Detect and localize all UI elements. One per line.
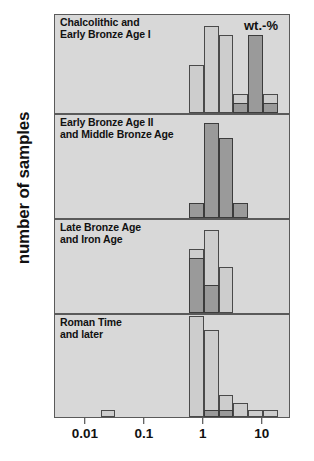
bar-light <box>204 330 219 417</box>
panel-title: Roman Time and later <box>60 317 122 340</box>
y-tick-label: 12 <box>54 126 55 140</box>
x-tick-mark <box>84 418 86 424</box>
y-tick-label: 8 <box>54 155 55 169</box>
bar-light <box>189 65 204 114</box>
bar-dark <box>263 103 278 113</box>
y-tick-label: 4 <box>54 184 55 198</box>
panel-title: Late Bronze Age and Iron Age <box>60 222 141 245</box>
bar-light <box>101 410 116 417</box>
x-axis-unit: wt.-% <box>244 18 278 33</box>
y-tick-label: 4 <box>54 69 55 83</box>
bar-dark <box>219 138 234 218</box>
histogram-figure: number of samples Chalcolithic and Early… <box>0 0 314 461</box>
y-tick-label: 8 <box>54 30 55 44</box>
x-axis: 0.010.1110 <box>54 418 290 460</box>
bar-dark <box>233 203 248 218</box>
panel-title: Early Bronze Age II and Middle Bronze Ag… <box>60 117 174 140</box>
bar-dark <box>189 258 204 313</box>
x-tick-mark <box>261 418 263 424</box>
x-tick-label: 0.01 <box>72 426 98 441</box>
x-tick-label: 10 <box>254 426 269 441</box>
y-tick-label: 4 <box>54 271 55 285</box>
bar-dark <box>233 103 248 113</box>
bar-light <box>219 267 234 313</box>
bar-light <box>248 410 263 417</box>
bar-light <box>263 410 278 417</box>
y-tick-label: 4 <box>54 383 55 397</box>
bar-dark <box>189 203 204 218</box>
x-tick-label: 0.1 <box>134 426 153 441</box>
panel-2: Early Bronze Age II and Middle Bronze Ag… <box>54 114 290 219</box>
bar-light <box>204 26 219 113</box>
bar-dark <box>204 410 219 417</box>
panel-3: Late Bronze Age and Iron Age48 <box>54 219 290 314</box>
bar-dark <box>219 410 234 417</box>
panel-stack: Chalcolithic and Early Bronze Age I48Ear… <box>54 14 290 418</box>
y-tick-label: 12 <box>54 325 55 339</box>
y-axis-label: number of samples <box>14 68 34 308</box>
bar-dark <box>204 123 219 218</box>
bar-light <box>219 35 234 113</box>
panel-title: Chalcolithic and Early Bronze Age I <box>60 17 151 40</box>
x-tick-label: 1 <box>199 426 207 441</box>
y-tick-label: 8 <box>54 234 55 248</box>
x-tick-mark <box>202 418 204 424</box>
panel-4: Roman Time and later4812 <box>54 314 290 418</box>
y-tick-label: 8 <box>54 354 55 368</box>
bar-light <box>233 403 248 417</box>
bar-light <box>189 316 204 417</box>
x-tick-mark <box>143 418 145 424</box>
bar-dark <box>248 35 263 113</box>
bar-dark <box>204 285 219 313</box>
